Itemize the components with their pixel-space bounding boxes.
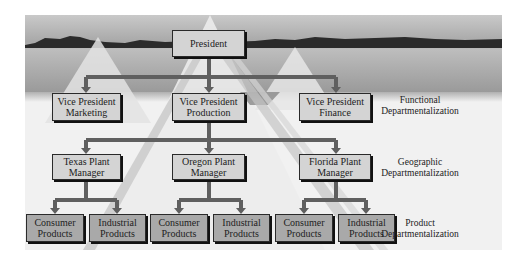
florida-plant-line1: Florida Plant [309, 156, 361, 167]
vp-production-box: Vice President Production [172, 93, 245, 121]
president-label: President [190, 38, 227, 49]
oregon-plant-box: Oregon Plant Manager [172, 154, 245, 180]
functional-departmentalization-label: Functional Departmentalization [365, 95, 475, 117]
oregon-plant-line1: Oregon Plant [182, 156, 235, 167]
geographic-departmentalization-label: Geographic Departmentalization [365, 157, 475, 179]
product-line1: Consumer [34, 217, 75, 228]
vp-marketing-box: Vice President Marketing [52, 93, 121, 121]
product-line1: Industrial [222, 217, 260, 228]
product-line2: Products [162, 228, 197, 239]
florida-plant-box: Florida Plant Manager [299, 154, 371, 180]
oregon-plant-line2: Manager [191, 167, 227, 178]
vp-finance-line1: Vice President [306, 96, 364, 107]
oregon-industrial-products-box: Industrial Products [213, 214, 270, 242]
texas-plant-box: Texas Plant Manager [52, 154, 121, 180]
label-line2: Departmentalization [365, 106, 475, 117]
label-line1: Product [365, 218, 475, 229]
texas-plant-line1: Texas Plant [63, 156, 109, 167]
product-line2: Products [100, 228, 135, 239]
oregon-consumer-products-box: Consumer Products [150, 214, 208, 242]
florida-consumer-products-box: Consumer Products [275, 214, 333, 242]
vp-production-line1: Vice President [180, 96, 238, 107]
product-line2: Products [38, 228, 73, 239]
vp-marketing-line2: Marketing [66, 107, 108, 118]
label-line2: Departmentalization [365, 168, 475, 179]
president-box: President [172, 30, 245, 57]
label-line1: Geographic [365, 157, 475, 168]
label-line1: Functional [365, 95, 475, 106]
product-line1: Industrial [98, 217, 136, 228]
product-line1: Consumer [283, 217, 324, 228]
product-line1: Consumer [158, 217, 199, 228]
vp-finance-box: Vice President Finance [299, 93, 371, 121]
texas-industrial-products-box: Industrial Products [89, 214, 146, 242]
vp-marketing-line1: Vice President [58, 96, 116, 107]
product-departmentalization-label: Product Departmentalization [365, 218, 475, 240]
vp-production-line2: Production [187, 107, 231, 118]
texas-consumer-products-box: Consumer Products [26, 214, 84, 242]
product-line2: Products [224, 228, 259, 239]
label-line2: Departmentalization [365, 229, 475, 240]
florida-plant-line2: Manager [317, 167, 353, 178]
product-line2: Products [287, 228, 322, 239]
vp-finance-line2: Finance [319, 107, 351, 118]
texas-plant-line2: Manager [69, 167, 105, 178]
